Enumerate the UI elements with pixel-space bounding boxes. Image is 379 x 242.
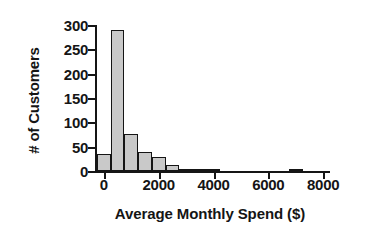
y-axis-tick-mark bbox=[88, 74, 96, 76]
y-axis-tick-mark bbox=[88, 122, 96, 124]
y-axis-tick-mark bbox=[88, 25, 96, 27]
x-axis-tick-label: 2000 bbox=[129, 177, 189, 192]
plot-area bbox=[95, 25, 330, 173]
y-axis-tick-label: 50 bbox=[44, 139, 88, 154]
histogram-bars bbox=[97, 25, 330, 171]
histogram-bar bbox=[152, 157, 166, 171]
x-axis-line bbox=[95, 171, 330, 173]
y-axis-tick-mark bbox=[88, 98, 96, 100]
y-axis-tick-mark bbox=[88, 49, 96, 51]
histogram-bar bbox=[193, 169, 207, 171]
y-axis-tick-label: 250 bbox=[44, 42, 88, 57]
y-axis-tick-labels: 050100150200250300 bbox=[44, 18, 88, 173]
x-axis-tick-label: 4000 bbox=[184, 177, 244, 192]
x-axis-tick-labels: 02000400060008000 bbox=[95, 177, 340, 197]
histogram-chart: # of Customers 050100150200250300 020004… bbox=[0, 0, 379, 242]
y-axis-tick-mark bbox=[88, 171, 96, 173]
histogram-bar bbox=[289, 169, 303, 171]
histogram-bar bbox=[207, 169, 221, 171]
histogram-bar bbox=[124, 134, 138, 171]
x-axis-title: Average Monthly Spend ($) bbox=[60, 205, 360, 222]
y-axis-tick-label: 100 bbox=[44, 115, 88, 130]
y-axis-tick-mark bbox=[88, 147, 96, 149]
histogram-bar bbox=[166, 165, 180, 171]
y-axis-tick-label: 200 bbox=[44, 66, 88, 81]
x-axis-tick-label: 6000 bbox=[238, 177, 298, 192]
histogram-bar bbox=[97, 154, 111, 171]
histogram-bar bbox=[138, 152, 152, 171]
y-axis-tick-label: 300 bbox=[44, 18, 88, 33]
y-axis-title: # of Customers bbox=[25, 21, 42, 181]
x-axis-tick-label: 8000 bbox=[293, 177, 353, 192]
histogram-bar bbox=[179, 169, 193, 171]
y-axis-tick-label: 150 bbox=[44, 91, 88, 106]
histogram-bar bbox=[111, 30, 125, 171]
x-axis-tick-label: 0 bbox=[74, 177, 134, 192]
